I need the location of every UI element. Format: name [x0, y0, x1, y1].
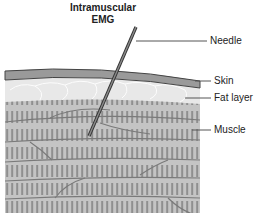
muscle-layer — [5, 96, 200, 216]
title-line2: EMG — [68, 14, 138, 26]
needle-label: Needle — [210, 35, 242, 46]
skin-label: Skin — [214, 75, 233, 86]
emg-diagram — [0, 0, 258, 221]
title: Intramuscular EMG — [68, 2, 138, 26]
title-line1: Intramuscular — [68, 2, 138, 14]
muscle-label: Muscle — [214, 124, 246, 135]
fat-layer-label: Fat layer — [214, 92, 253, 103]
